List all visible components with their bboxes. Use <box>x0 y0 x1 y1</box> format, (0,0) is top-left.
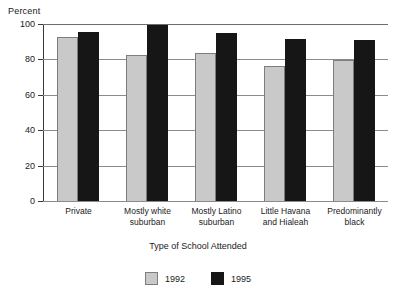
legend-label-1992: 1992 <box>165 274 185 284</box>
category-label: Private <box>44 206 113 228</box>
bar-chart: Percent 020406080100 PrivateMostly white… <box>0 0 396 305</box>
bar-1992[interactable] <box>264 66 285 201</box>
y-axis-tick-mark <box>38 59 43 60</box>
bar-1995[interactable] <box>78 32 99 201</box>
gridline: 0 <box>43 201 388 202</box>
category-label: Little Havanaand Hialeah <box>251 206 320 228</box>
y-axis-tick-label: 80 <box>25 54 35 64</box>
bar-1995[interactable] <box>147 25 168 201</box>
bar-group <box>44 25 113 201</box>
category-label: Mostly whitesuburban <box>113 206 182 228</box>
legend-item-1992[interactable]: 1992 <box>145 272 185 285</box>
bar-1992[interactable] <box>333 60 354 201</box>
bar-group <box>319 25 388 201</box>
legend-swatch-1992 <box>145 272 158 285</box>
bar-groups <box>44 25 388 201</box>
legend-item-1995[interactable]: 1995 <box>211 272 251 285</box>
x-axis-title: Type of School Attended <box>0 241 396 251</box>
y-axis-tick-mark <box>38 166 43 167</box>
chart-legend: 19921995 <box>0 272 396 285</box>
y-axis-tick-label: 60 <box>25 90 35 100</box>
bar-group <box>182 25 251 201</box>
category-label: Mostly Latinosuburban <box>182 206 251 228</box>
bar-group <box>113 25 182 201</box>
bar-1995[interactable] <box>354 40 375 201</box>
y-axis-tick-mark <box>38 201 43 202</box>
legend-label-1995: 1995 <box>231 274 251 284</box>
bar-1992[interactable] <box>195 53 216 201</box>
bar-1995[interactable] <box>285 39 306 201</box>
y-axis-tick-label: 20 <box>25 161 35 171</box>
bar-1995[interactable] <box>216 33 237 201</box>
y-axis-tick-mark <box>38 130 43 131</box>
y-axis-tick-mark <box>38 24 43 25</box>
bar-1992[interactable] <box>126 55 147 201</box>
x-axis-tick-labels: PrivateMostly whitesuburbanMostly Latino… <box>44 206 389 228</box>
y-axis-tick-label: 0 <box>30 196 35 206</box>
y-axis-tick-label: 40 <box>25 125 35 135</box>
y-axis-tick-label: 100 <box>20 19 35 29</box>
bar-1992[interactable] <box>57 37 78 201</box>
bar-group <box>250 25 319 201</box>
plot-area: 020406080100 <box>43 25 388 202</box>
legend-swatch-1995 <box>211 272 224 285</box>
y-axis-tick-mark <box>38 95 43 96</box>
category-label: Predominantlyblack <box>320 206 389 228</box>
y-axis-label: Percent <box>8 6 40 16</box>
